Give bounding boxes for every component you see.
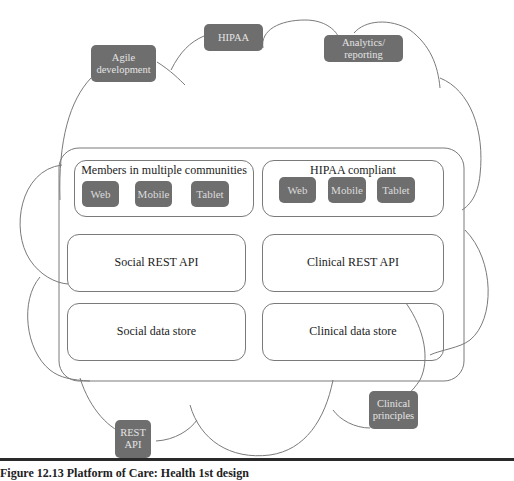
clinical-rest-api-box: Clinical REST API — [262, 234, 444, 292]
hipaa-clients-title: HIPAA compliant — [263, 163, 443, 178]
social-web-client: Web — [82, 181, 119, 207]
social-mobile-client: Mobile — [135, 181, 172, 207]
clinical-web-client: Web — [279, 177, 316, 203]
agile-development-tag: Agile development — [91, 45, 156, 82]
social-rest-api-box: Social REST API — [67, 234, 246, 292]
clinical-data-store-box: Clinical data store — [262, 303, 444, 361]
hipaa-tag: HIPAA — [204, 24, 263, 51]
clinical-data-store-label: Clinical data store — [263, 324, 443, 339]
social-data-store-box: Social data store — [67, 303, 246, 361]
rest-api-tag: REST API — [115, 420, 151, 458]
caption-rule — [0, 458, 514, 461]
figure-caption: Figure 12.13 Platform of Care: Health 1s… — [0, 466, 249, 481]
clinical-rest-api-label: Clinical REST API — [263, 255, 443, 270]
members-clients-title: Members in multiple communities — [75, 163, 253, 178]
social-data-store-label: Social data store — [68, 324, 245, 339]
social-rest-api-label: Social REST API — [68, 255, 245, 270]
clinical-principles-tag: Clinical principles — [369, 391, 418, 429]
clinical-mobile-client: Mobile — [328, 177, 366, 203]
analytics-reporting-tag: Analytics/ reporting — [324, 35, 403, 62]
clinical-tablet-client: Tablet — [377, 177, 415, 203]
social-tablet-client: Tablet — [191, 181, 229, 207]
